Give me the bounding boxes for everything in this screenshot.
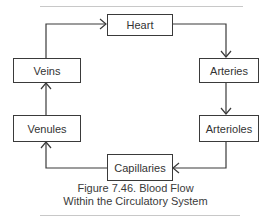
node-arterioles: Arterioles bbox=[199, 115, 259, 142]
arrow-arterioles-to-capillaries bbox=[173, 141, 226, 168]
figure-caption-line1: Figure 7.46. Blood Flow bbox=[0, 182, 271, 195]
node-heart: Heart bbox=[107, 14, 173, 36]
arrow-heart-to-arteries bbox=[172, 24, 226, 57]
node-venules-label: Venules bbox=[27, 123, 66, 135]
node-arteries-label: Arteries bbox=[210, 65, 248, 77]
node-venules: Venules bbox=[13, 115, 81, 142]
node-veins: Veins bbox=[13, 58, 81, 83]
figure-caption-line2: Within the Circulatory System bbox=[0, 195, 271, 208]
node-veins-label: Veins bbox=[34, 65, 61, 77]
node-arteries: Arteries bbox=[199, 58, 259, 83]
node-arterioles-label: Arterioles bbox=[206, 123, 252, 135]
arrow-veins-to-heart bbox=[46, 24, 106, 58]
node-heart-label: Heart bbox=[127, 19, 154, 31]
node-capillaries: Capillaries bbox=[107, 154, 173, 181]
arrow-capillaries-to-venules bbox=[46, 142, 107, 168]
node-capillaries-label: Capillaries bbox=[114, 162, 165, 174]
bottom-rule bbox=[40, 215, 240, 216]
